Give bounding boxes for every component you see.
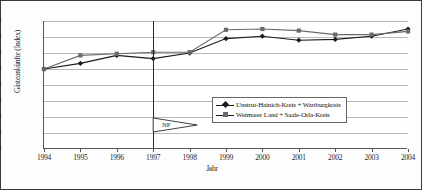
x-axis-tick-mark xyxy=(153,149,154,152)
x-axis-tick-mark xyxy=(262,149,263,152)
x-axis-tick-label: 2003 xyxy=(355,153,389,162)
x-axis-tick-mark xyxy=(80,149,81,152)
y-axis-tick-label: 140 xyxy=(0,33,1,41)
y-axis-tick-label: 60 xyxy=(0,97,1,105)
x-axis-tick-mark xyxy=(117,149,118,152)
x-axis-tick-label: 1998 xyxy=(173,153,207,162)
y-axis-tick-label: 0 xyxy=(0,145,1,153)
x-axis-tick-label: 2000 xyxy=(245,153,279,162)
x-axis-tick-label: 2002 xyxy=(318,153,352,162)
y-axis-title: Gästeankünfte (Index) xyxy=(13,0,22,130)
y-axis-tick-label: 160 xyxy=(0,17,1,25)
x-axis-tick-mark xyxy=(335,149,336,152)
x-axis-tick-label: 1996 xyxy=(100,153,134,162)
x-axis-tick-label: 1999 xyxy=(209,153,243,162)
y-axis-tick-label: 100 xyxy=(0,65,1,73)
legend-item-series-1: Unstrut-Hainich-Kreis + Wartburgkreis xyxy=(216,100,341,110)
x-axis-tick-label: 2001 xyxy=(282,153,316,162)
x-axis-tick-label: 1997 xyxy=(136,153,170,162)
x-axis-title: Jahr xyxy=(1,164,422,173)
legend-label-series-1: Unstrut-Hainich-Kreis + Wartburgkreis xyxy=(236,101,341,110)
y-axis-tick-label: 80 xyxy=(0,81,1,89)
x-axis-tick-label: 2004 xyxy=(391,153,422,162)
x-axis-tick-mark xyxy=(190,149,191,152)
legend-marker-square-icon xyxy=(216,111,234,120)
x-axis-tick-mark xyxy=(372,149,373,152)
y-axis-tick-label: 120 xyxy=(0,49,1,57)
x-axis-tick-mark xyxy=(226,149,227,152)
x-axis-tick-label: 1994 xyxy=(27,153,61,162)
x-axis-tick-mark xyxy=(299,149,300,152)
chart-figure-frame: Gästeankünfte (Index) 020406080100120140… xyxy=(0,0,422,190)
legend-marker-diamond-icon xyxy=(216,101,234,110)
legend-label-series-2: Weimarer Land + Saale-Orla-Kreis xyxy=(236,111,330,120)
x-axis-tick-label: 1995 xyxy=(63,153,97,162)
x-axis-tick-mark xyxy=(44,149,45,152)
np-annotation-label: NP xyxy=(158,121,174,128)
plot-area: 020406080100120140160 199419951996199719… xyxy=(43,21,407,149)
y-axis-tick-label: 20 xyxy=(0,129,1,137)
chart-legend: Unstrut-Hainich-Kreis + Wartburgkreis We… xyxy=(212,97,347,123)
y-axis-tick-label: 40 xyxy=(0,113,1,121)
x-axis-tick-mark xyxy=(408,149,409,152)
np-pennant-shape xyxy=(44,21,408,149)
legend-item-series-2: Weimarer Land + Saale-Orla-Kreis xyxy=(216,110,341,120)
